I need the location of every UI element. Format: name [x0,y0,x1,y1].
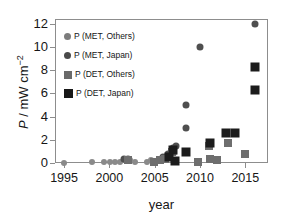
x-tick-label: 2010 [179,172,221,185]
data-point [132,159,138,165]
legend-item[interactable]: P (DET, Japan) [64,84,172,103]
chart-figure: 024681012 19952000200520102015 year P / … [0,0,285,224]
data-point [231,129,240,138]
legend-label: P (MET, Others) [74,32,135,41]
y-tick-mark [50,117,55,118]
x-tick-label: 1995 [43,172,85,185]
legend-square-marker-icon [64,89,73,98]
x-tick-label: 2015 [224,172,266,185]
legend: P (MET, Others)P (MET, Japan)P (DET, Oth… [64,27,172,103]
data-point [182,147,191,156]
data-point [183,101,190,108]
data-point [224,139,232,147]
data-point [241,150,249,158]
data-point [222,129,231,138]
legend-circle-marker-icon [64,52,71,59]
data-point [61,160,67,166]
data-point [170,157,179,166]
legend-item[interactable]: P (DET, Others) [64,65,172,84]
data-point [89,159,95,165]
y-axis-label: P / mW cm−2 [15,27,31,157]
data-point [251,62,260,71]
y-tick-mark [50,93,55,94]
data-point [101,159,107,165]
data-point [194,158,202,166]
data-point [213,156,221,164]
legend-label: P (DET, Japan) [76,89,133,98]
legend-square-marker-icon [64,71,72,79]
x-tick-label: 2000 [88,172,130,185]
y-tick-mark [50,140,55,141]
legend-label: P (DET, Others) [75,70,135,79]
y-tick-label: 0 [24,156,48,169]
y-axis-exponent: −2 [15,55,25,65]
data-point [168,145,177,154]
y-tick-mark [50,47,55,48]
x-tick-label: 2005 [134,172,176,185]
data-point [182,125,189,132]
data-point [205,139,214,148]
legend-circle-marker-icon [64,33,71,40]
y-tick-mark [50,163,55,164]
y-axis-symbol: P [16,120,31,129]
data-point [251,85,260,94]
x-axis-label: year [55,197,268,212]
data-point [252,20,259,27]
data-point [197,43,204,50]
y-tick-mark [50,24,55,25]
x-tick-mark [245,163,246,168]
legend-label: P (MET, Japan) [74,51,132,60]
legend-item[interactable]: P (MET, Others) [64,27,172,46]
legend-item[interactable]: P (MET, Japan) [64,46,172,65]
y-tick-mark [50,70,55,71]
data-point [124,156,132,164]
